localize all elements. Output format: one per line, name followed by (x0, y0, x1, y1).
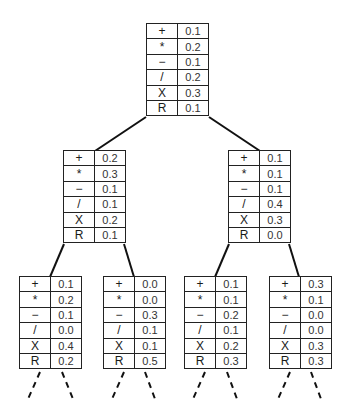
tree-node-root: +0.1*0.2−0.1/0.2X0.3R0.1 (146, 23, 209, 116)
operator-label: − (147, 54, 178, 69)
node-row-x: X0.2 (185, 338, 247, 353)
probability-value: 0.3 (178, 85, 209, 100)
node-row-divide: /0.0 (270, 323, 332, 338)
probability-value: 0.1 (216, 292, 247, 307)
probability-value: 0.1 (178, 100, 209, 115)
operator-label: R (147, 100, 178, 115)
node-row-divide: /0.1 (104, 323, 166, 338)
operator-label: R (185, 353, 216, 368)
node-row-plus: +0.1 (185, 277, 247, 292)
probability-value: 0.1 (178, 54, 209, 69)
node-row-plus: +0.2 (64, 151, 126, 166)
node-row-minus: −0.2 (185, 307, 247, 322)
operator-label: X (185, 338, 216, 353)
probability-value: 0.1 (51, 307, 82, 322)
node-row-x: X0.1 (104, 338, 166, 353)
node-row-minus: −0.3 (104, 307, 166, 322)
node-row-minus: −0.0 (270, 307, 332, 322)
probability-value: 0.1 (260, 181, 291, 196)
operator-label: + (20, 277, 51, 292)
node-row-multiply: *0.2 (147, 39, 209, 54)
operator-label: R (20, 353, 51, 368)
probability-value: 0.3 (95, 166, 126, 181)
tree-edge (215, 244, 229, 277)
node-row-plus: +0.3 (270, 277, 332, 292)
probability-value: 0.3 (301, 338, 332, 353)
node-row-r: R0.3 (270, 353, 332, 368)
operator-label: − (20, 307, 51, 322)
operator-label: − (104, 307, 135, 322)
probability-value: 0.1 (260, 151, 291, 166)
operator-label: X (147, 85, 178, 100)
operator-label: + (185, 277, 216, 292)
operator-label: X (270, 338, 301, 353)
node-row-x: X0.3 (229, 212, 291, 227)
probability-value: 0.3 (135, 307, 166, 322)
node-row-multiply: *0.0 (104, 292, 166, 307)
operator-label: R (270, 353, 301, 368)
probability-value: 0.5 (135, 353, 166, 368)
operator-label: + (270, 277, 301, 292)
operator-label: * (20, 292, 51, 307)
operator-label: / (147, 70, 178, 85)
node-row-r: R0.2 (20, 353, 82, 368)
continuation-edge (112, 372, 124, 399)
node-row-minus: −0.1 (20, 307, 82, 322)
node-row-plus: +0.1 (147, 24, 209, 39)
node-row-minus: −0.1 (229, 181, 291, 196)
node-row-plus: +0.1 (20, 277, 82, 292)
operator-label: − (270, 307, 301, 322)
probability-value: 0.2 (95, 151, 126, 166)
operator-label: + (64, 151, 95, 166)
node-row-plus: +0.0 (104, 277, 166, 292)
continuation-edge (311, 372, 321, 399)
probability-value: 0.1 (95, 197, 126, 212)
operator-label: / (64, 197, 95, 212)
operator-label: R (229, 227, 260, 242)
node-row-multiply: *0.1 (229, 166, 291, 181)
node-row-r: R0.1 (64, 227, 126, 242)
probability-value: 0.2 (178, 70, 209, 85)
operator-label: X (20, 338, 51, 353)
continuation-edge (145, 372, 155, 399)
operator-label: − (185, 307, 216, 322)
probability-value: 0.1 (95, 227, 126, 242)
tree-node-ll: +0.1*0.2−0.1/0.0X0.4R0.2 (19, 276, 82, 369)
operator-label: − (64, 181, 95, 196)
probability-value: 0.1 (135, 323, 166, 338)
operator-label: R (104, 353, 135, 368)
probability-value: 0.3 (216, 353, 247, 368)
probability-value: 0.0 (51, 323, 82, 338)
node-row-r: R0.5 (104, 353, 166, 368)
probability-value: 0.0 (135, 292, 166, 307)
operator-label: * (64, 166, 95, 181)
node-row-minus: −0.1 (147, 54, 209, 69)
operator-label: + (104, 277, 135, 292)
node-row-multiply: *0.3 (64, 166, 126, 181)
operator-label: * (104, 292, 135, 307)
probability-value: 0.0 (301, 307, 332, 322)
probability-value: 0.4 (51, 338, 82, 353)
node-row-multiply: *0.1 (270, 292, 332, 307)
tree-node-rl: +0.1*0.1−0.2/0.1X0.2R0.3 (184, 276, 247, 369)
continuation-edge (278, 372, 290, 399)
tree-edge (209, 117, 260, 151)
probability-value: 0.1 (51, 277, 82, 292)
tree-edge (95, 117, 146, 151)
probability-value: 0.2 (95, 212, 126, 227)
probability-value: 0.1 (301, 292, 332, 307)
operator-label: * (185, 292, 216, 307)
probability-value: 0.2 (216, 338, 247, 353)
operator-label: * (229, 166, 260, 181)
tree-diagram: +0.1*0.2−0.1/0.2X0.3R0.1 +0.2*0.3−0.1/0.… (0, 0, 347, 418)
tree-node-l: +0.2*0.3−0.1/0.1X0.2R0.1 (63, 150, 126, 243)
continuation-edge (62, 372, 73, 399)
operator-label: + (229, 151, 260, 166)
probability-value: 0.1 (216, 277, 247, 292)
operator-label: X (104, 338, 135, 353)
tree-node-r: +0.1*0.1−0.1/0.4X0.3R0.0 (228, 150, 291, 243)
node-row-divide: /0.0 (20, 323, 82, 338)
probability-value: 0.0 (260, 227, 291, 242)
probability-value: 0.0 (301, 323, 332, 338)
probability-value: 0.3 (260, 212, 291, 227)
